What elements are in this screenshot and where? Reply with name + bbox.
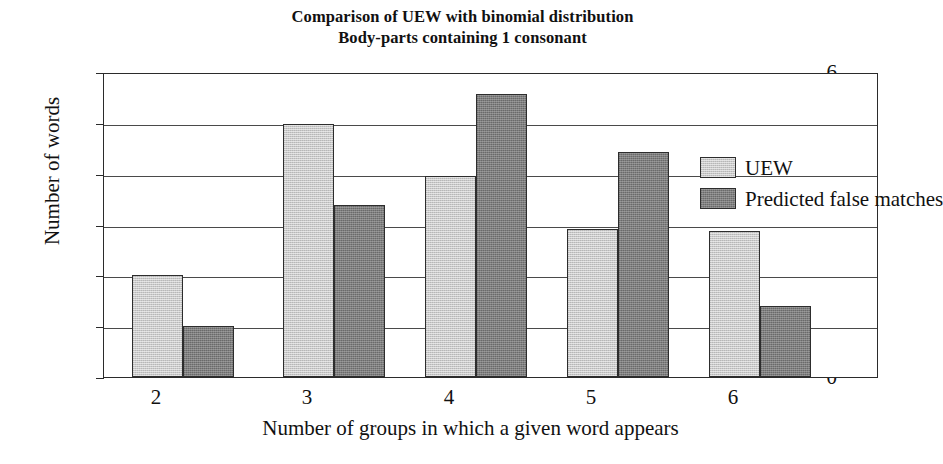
y-axis-label: Number of words — [41, 71, 63, 271]
legend-swatch-uew — [700, 157, 736, 178]
x-tick-label-2: 2 — [126, 386, 186, 408]
bar-uew-5[interactable] — [567, 229, 618, 377]
x-tick-label-3: 3 — [277, 386, 337, 408]
y-tick-mark-0 — [96, 378, 104, 379]
bar-pred-2[interactable] — [183, 326, 234, 377]
bar-pred-4[interactable] — [476, 94, 527, 377]
bar-uew-6[interactable] — [709, 231, 760, 377]
bar-uew-3[interactable] — [283, 124, 334, 377]
bar-pred-5[interactable] — [618, 152, 669, 377]
legend-label-predicted: Predicted false matches — [745, 188, 943, 210]
bars-layer — [104, 74, 877, 377]
bar-uew-4[interactable] — [425, 176, 476, 377]
legend-item-predicted[interactable]: Predicted false matches — [700, 183, 943, 214]
chart-title-line-2: Body-parts containing 1 consonant — [0, 27, 925, 48]
x-tick-label-4: 4 — [419, 386, 479, 408]
legend-swatch-predicted — [700, 188, 736, 209]
legend-item-uew[interactable]: UEW — [700, 152, 943, 183]
x-tick-label-5: 5 — [561, 386, 621, 408]
chart-title: Comparison of UEW with binomial distribu… — [0, 6, 925, 48]
bar-pred-3[interactable] — [334, 205, 385, 377]
bar-uew-2[interactable] — [132, 275, 183, 377]
legend: UEW Predicted false matches — [700, 152, 943, 214]
bar-pred-6[interactable] — [760, 306, 811, 377]
legend-label-uew: UEW — [745, 157, 793, 179]
x-axis-label: Number of groups in which a given word a… — [0, 416, 925, 440]
chart-title-line-1: Comparison of UEW with binomial distribu… — [0, 6, 925, 27]
plot-area: UEW Predicted false matches — [103, 73, 878, 378]
x-tick-label-6: 6 — [703, 386, 763, 408]
